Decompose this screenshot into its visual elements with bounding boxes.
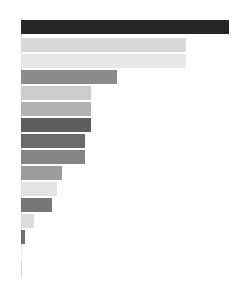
bar[interactable] — [21, 246, 22, 260]
bar[interactable] — [21, 86, 91, 100]
bar[interactable] — [21, 166, 62, 180]
bar[interactable] — [21, 70, 117, 84]
bar[interactable] — [21, 54, 186, 68]
bar[interactable] — [21, 150, 85, 164]
bar[interactable] — [21, 230, 25, 244]
bar[interactable] — [21, 102, 91, 116]
plot-area — [0, 0, 239, 285]
bar[interactable] — [21, 20, 229, 34]
bar[interactable] — [21, 214, 34, 228]
bar-chart — [0, 0, 239, 285]
bar[interactable] — [21, 134, 85, 148]
bar[interactable] — [21, 198, 52, 212]
bar[interactable] — [21, 38, 186, 52]
bar[interactable] — [21, 118, 91, 132]
bar[interactable] — [21, 182, 57, 196]
